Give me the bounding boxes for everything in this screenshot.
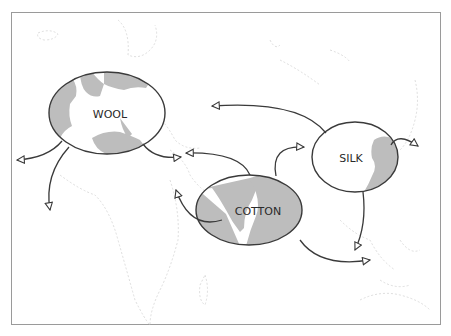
arrow-silk-south	[355, 192, 364, 250]
arrow-wool-east	[143, 144, 181, 157]
arrow-cotton-southeast	[300, 240, 370, 262]
arrow-silk-west	[212, 105, 326, 133]
arrow-wool-southwest	[49, 147, 69, 210]
silk-label: SILK	[339, 152, 363, 165]
arrow-wool-west	[17, 141, 62, 160]
wool-region[interactable]: WOOL	[49, 68, 165, 156]
cotton-region[interactable]: COTTON	[196, 175, 302, 246]
cotton-label: COTTON	[235, 205, 281, 218]
arrow-cotton-northeast	[275, 147, 304, 176]
trade-map: WOOL COTTON SILK	[0, 0, 451, 336]
wool-label: WOOL	[93, 108, 128, 121]
arrow-cotton-northwest	[186, 153, 250, 175]
